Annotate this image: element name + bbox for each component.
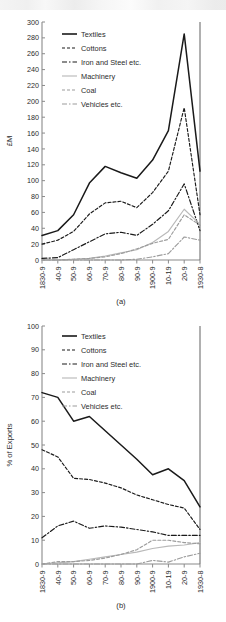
legend-label: Textiles	[81, 30, 106, 39]
scan-artifact-band	[0, 0, 226, 10]
y-tick-label: 80	[31, 192, 39, 201]
y-tick-label: 140	[27, 145, 39, 154]
legend-label: Vehicles etc.	[81, 402, 123, 411]
x-tick-label: 1830-9	[38, 571, 47, 593]
y-axis-label: £M	[5, 136, 14, 147]
x-tick-label: 90-9	[133, 571, 142, 585]
y-tick-label: 100	[27, 176, 39, 185]
legend-label: Coal	[81, 388, 97, 397]
x-tick-label: 70-9	[101, 571, 110, 585]
chart-a-canvas: 0204060801001201401601802002202402602803…	[0, 12, 226, 312]
y-tick-label: 60	[31, 208, 39, 217]
y-tick-label: 180	[27, 113, 39, 122]
legend-label: Cottons	[81, 346, 107, 355]
y-tick-label: 280	[27, 33, 39, 42]
legend-label: Machinery	[81, 374, 115, 383]
y-tick-label: 90	[31, 345, 39, 354]
x-tick-label: 60-9	[85, 571, 94, 585]
x-tick-label: 1930-8	[196, 267, 205, 289]
y-tick-label: 50	[31, 441, 39, 450]
x-tick-label: 80-9	[117, 267, 126, 281]
y-tick-label: 20	[31, 240, 39, 249]
y-tick-label: 160	[27, 129, 39, 138]
chart-panel-b: 01020304050607080901001830-940-950-960-9…	[0, 318, 226, 618]
y-tick-label: 40	[31, 224, 39, 233]
series-line-vehicles-etc	[42, 237, 200, 260]
x-tick-label: 40-9	[54, 571, 63, 585]
x-tick-label: 1930-8	[196, 571, 205, 593]
x-tick-label: 60-9	[85, 267, 94, 281]
x-tick-label: 80-9	[117, 571, 126, 585]
y-tick-label: 20	[31, 512, 39, 521]
x-tick-label: 50-9	[69, 267, 78, 281]
y-tick-label: 220	[27, 81, 39, 90]
x-tick-label: 20-9	[180, 571, 189, 585]
legend-label: Textiles	[81, 332, 106, 341]
y-tick-label: 40	[31, 464, 39, 473]
panel-caption: (b)	[116, 601, 126, 610]
legend-label: Machinery	[81, 72, 115, 81]
series-line-cottons	[42, 450, 200, 530]
x-tick-label: 50-9	[69, 571, 78, 585]
series-line-machinery	[42, 543, 200, 564]
series-line-coal	[42, 540, 200, 564]
legend-label: Iron and Steel etc.	[81, 58, 141, 67]
x-tick-label: 1900-9	[148, 267, 157, 289]
chart-panel-a: 0204060801001201401601802002202402602803…	[0, 12, 226, 312]
legend-label: Coal	[81, 86, 97, 95]
y-tick-label: 300	[27, 18, 39, 27]
y-tick-label: 200	[27, 97, 39, 106]
x-tick-label: 10-19	[164, 267, 173, 285]
y-tick-label: 100	[27, 322, 39, 331]
x-tick-label: 90-9	[133, 267, 142, 281]
legend-label: Iron and Steel etc.	[81, 360, 141, 369]
panel-caption: (a)	[116, 297, 126, 306]
y-tick-label: 30	[31, 488, 39, 497]
y-tick-label: 10	[31, 536, 39, 545]
chart-b-canvas: 01020304050607080901001830-940-950-960-9…	[0, 318, 226, 618]
y-tick-label: 240	[27, 65, 39, 74]
x-tick-label: 1900-9	[148, 571, 157, 593]
y-tick-label: 70	[31, 393, 39, 402]
series-line-machinery	[42, 209, 200, 260]
y-tick-label: 80	[31, 369, 39, 378]
y-tick-label: 0	[35, 560, 39, 569]
legend-label: Cottons	[81, 44, 107, 53]
y-tick-label: 260	[27, 49, 39, 58]
y-tick-label: 60	[31, 417, 39, 426]
y-tick-label: 0	[35, 256, 39, 265]
x-tick-label: 40-9	[54, 267, 63, 281]
legend-label: Vehicles etc.	[81, 100, 123, 109]
y-tick-label: 120	[27, 160, 39, 169]
x-tick-label: 10-19	[164, 571, 173, 589]
series-line-iron-and-steel-etc	[42, 521, 200, 538]
x-tick-label: 20-9	[180, 267, 189, 281]
x-tick-label: 70-9	[101, 267, 110, 281]
y-axis-label: % of Exports	[5, 423, 14, 466]
x-tick-label: 1830-9	[38, 267, 47, 289]
